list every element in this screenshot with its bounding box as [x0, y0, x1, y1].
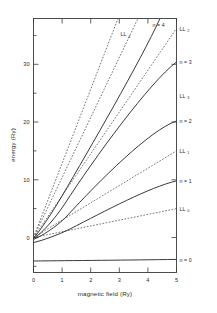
x-tick-label-1: 1	[61, 277, 64, 283]
y-axis-title: energy (Ry)	[9, 128, 16, 162]
label-LL4-text: LL	[121, 31, 127, 37]
series-line-LL0	[34, 209, 177, 238]
x-tick-label-4: 4	[146, 277, 149, 283]
series-line-n0	[34, 259, 177, 261]
series-line-n4	[34, 19, 161, 239]
label-n3: n = 3	[180, 59, 192, 65]
series-line-LL1	[34, 151, 177, 238]
label-LL0-sub: 0	[187, 209, 189, 213]
label-LL1: LL 1	[180, 148, 190, 156]
label-LL3: LL 3	[180, 93, 190, 101]
x-tick-label-3: 3	[118, 277, 121, 283]
label-n0: n = 0	[180, 257, 192, 263]
y-tick-label-0: 0	[26, 235, 29, 241]
label-LL1-sub: 1	[187, 151, 189, 155]
y-axis-ticks	[34, 36, 177, 267]
x-axis-title: magnetic field (Ry)	[78, 290, 132, 297]
label-LL1-text: LL	[180, 148, 186, 154]
label-LL3-sub: 3	[187, 96, 189, 100]
label-LL4-sub: 4	[128, 35, 130, 39]
series-line-n2	[34, 121, 177, 239]
x-tick-label-2: 2	[89, 277, 92, 283]
y-tick-label-10: 10	[23, 177, 29, 183]
label-n4: n = 4	[153, 22, 165, 28]
label-LL2: LL 2	[180, 26, 190, 34]
label-n2: n = 2	[180, 118, 192, 124]
label-LL3-text: LL	[180, 93, 186, 99]
energy-vs-magnetic-field-chart: 0 1 2 3 4 5 30 20 10 0 magnetic field (R…	[0, 0, 217, 313]
label-n1: n = 1	[180, 178, 192, 184]
label-LL0: LL 0	[180, 206, 190, 214]
y-tick-label-30: 30	[23, 61, 29, 67]
label-LL4: LL 4	[121, 31, 131, 39]
label-LL0-text: LL	[180, 206, 186, 212]
label-LL2-text: LL	[180, 26, 186, 32]
chart-figure: 0 1 2 3 4 5 30 20 10 0 magnetic field (R…	[0, 0, 217, 313]
y-tick-label-20: 20	[23, 119, 29, 125]
series-line-n3	[34, 62, 177, 239]
x-tick-label-0: 0	[32, 277, 35, 283]
x-tick-label-5: 5	[175, 277, 178, 283]
series-line-n1	[34, 181, 177, 243]
label-LL2-sub: 2	[187, 29, 189, 33]
series-line-LL3	[34, 19, 138, 238]
series-line-LL4	[34, 19, 119, 238]
